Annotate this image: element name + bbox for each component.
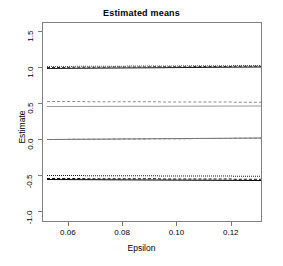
x-axis-tick-label: 0.06	[60, 228, 76, 237]
chart-title: Estimated means	[0, 8, 283, 18]
series-line	[47, 105, 261, 106]
x-axis-tick	[176, 222, 177, 226]
y-axis-tick-label: 0.5	[26, 102, 35, 113]
series-line	[47, 137, 261, 139]
plot-area	[42, 22, 262, 222]
series-clip	[43, 23, 261, 221]
y-axis-title: Estimate	[17, 87, 27, 167]
y-axis-tick-label: 1.0	[26, 66, 35, 77]
x-axis-tick-label: 0.08	[114, 228, 130, 237]
y-axis-tick-label: 0.0	[26, 138, 35, 149]
y-axis-tick-label: -1.0	[26, 211, 35, 225]
y-axis-tick-label: -0.5	[26, 175, 35, 189]
series-line	[47, 175, 261, 177]
x-axis-tick	[122, 222, 123, 226]
x-axis-tick	[68, 222, 69, 226]
y-axis-tick-label: 1.5	[26, 30, 35, 41]
x-axis-title: Epsilon	[0, 243, 283, 253]
x-axis-tick	[231, 222, 232, 226]
x-axis-tick-label: 0.12	[223, 228, 239, 237]
series-line	[47, 101, 261, 103]
x-axis-tick-label: 0.10	[169, 228, 185, 237]
chart-figure: Estimated means Estimate Epsilon -1.0-0.…	[0, 0, 283, 266]
